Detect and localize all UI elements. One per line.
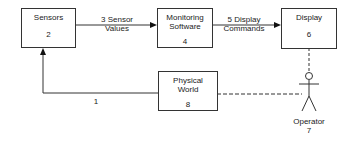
node-title: Display [282, 13, 336, 22]
node-number: 2 [22, 30, 75, 39]
edge-label-sensor-values: 3 Sensor Values [94, 15, 140, 33]
node-number: 6 [282, 30, 336, 39]
node-title-line1: Physical [159, 76, 217, 85]
node-sensors[interactable]: Sensors 2 [21, 8, 76, 48]
node-physical-world[interactable]: Physical World 8 [158, 71, 218, 111]
arrow-head-icon [150, 22, 157, 28]
node-title: Physical World [159, 76, 217, 94]
node-display[interactable]: Display 6 [281, 8, 337, 49]
node-title: Sensors [22, 13, 75, 22]
edge-label-line2: Values [94, 24, 140, 33]
edge-label-line2: Commands [215, 24, 273, 33]
node-title-line2: Software [158, 22, 212, 31]
actor-name: Operator [288, 117, 330, 126]
edge-label-line1: 5 Display [215, 15, 273, 24]
actor-number: 7 [288, 126, 330, 135]
node-monitoring-software[interactable]: Monitoring Software 4 [157, 8, 213, 48]
node-title-line1: Monitoring [158, 13, 212, 22]
edge-label-display-commands: 5 Display Commands [215, 15, 273, 33]
node-number: 4 [158, 37, 212, 46]
edge-label-line1: 3 Sensor [94, 15, 140, 24]
actor-label: Operator 7 [288, 117, 330, 135]
edge-label-1: 1 [90, 97, 102, 106]
edge-physical-to-sensors [43, 52, 158, 93]
arrow-head-icon [40, 48, 46, 55]
node-title: Monitoring Software [158, 13, 212, 31]
operator-actor-icon [299, 73, 319, 112]
node-title-line2: World [159, 85, 217, 94]
node-number: 8 [159, 100, 217, 109]
arrow-head-icon [274, 22, 281, 28]
